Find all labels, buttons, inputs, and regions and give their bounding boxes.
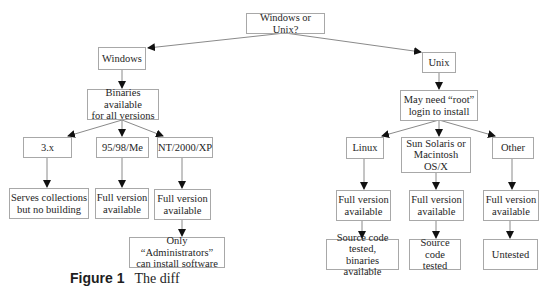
node-win-3x: 3.x (23, 137, 72, 158)
node-win-9x: 95/98/Me (96, 137, 149, 158)
node-linux: Linux (346, 137, 384, 159)
node-full-version-other: Full version available (483, 190, 539, 221)
node-untested: Untested (483, 239, 538, 270)
node-source-tested: Source code tested (409, 239, 461, 270)
node-full-version-nt: Full version available (154, 189, 211, 220)
figure-caption: Figure 1The diff (70, 270, 180, 287)
node-full-version-linux: Full version available (336, 190, 391, 221)
node-windows: Windows (98, 47, 146, 70)
node-serves-collections: Serves collections but no building (9, 188, 89, 219)
node-root-login: May need “root” login to install (400, 90, 478, 121)
node-windows-or-unix: Windows or Unix? (246, 13, 325, 34)
node-other: Other (492, 137, 534, 159)
node-full-version-sun: Full version available (409, 190, 464, 221)
node-sun-mac: Sun Solaris or Macintosh OS/X (401, 137, 471, 173)
node-source-binaries: Source code tested, binaries available (326, 239, 399, 270)
figure-label: Figure 1 (70, 270, 124, 286)
node-binaries-available: Binaries available for all versions (87, 89, 159, 120)
node-only-administrators: Only “Administrators” can install softwa… (129, 237, 225, 268)
node-unix: Unix (422, 52, 456, 73)
node-full-version-9x: Full version available (95, 188, 149, 219)
node-win-nt: NT/2000/XP (157, 137, 213, 158)
figure-caption-text: The diff (134, 271, 179, 286)
